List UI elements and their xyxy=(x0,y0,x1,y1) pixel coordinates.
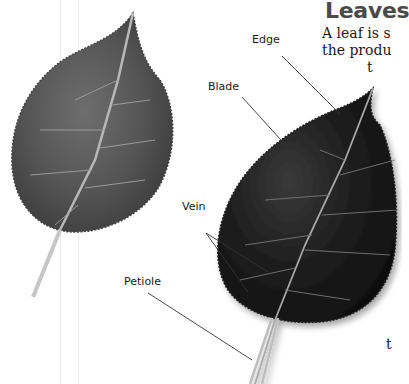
petiole-leader-line xyxy=(148,293,252,360)
blade-label: Blade xyxy=(208,80,239,93)
blade-leader-line xyxy=(242,97,290,150)
leaf-photo-right xyxy=(218,88,398,384)
leaf-photo-left xyxy=(12,13,173,297)
petiole-label: Petiole xyxy=(124,275,161,288)
edge-leader-line xyxy=(282,56,340,114)
vein-label: Vein xyxy=(182,200,205,213)
edge-label: Edge xyxy=(252,33,280,46)
